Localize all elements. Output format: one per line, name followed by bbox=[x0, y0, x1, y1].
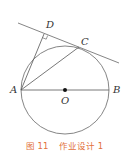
circle-tangent-diagram bbox=[0, 0, 129, 155]
label-c: C bbox=[81, 37, 89, 47]
figure-caption: 图 11 作业设计 1 bbox=[0, 142, 129, 151]
label-a: A bbox=[10, 85, 17, 95]
center-point-o bbox=[63, 88, 67, 92]
geometry-figure: D C A B O 图 11 作业设计 1 bbox=[0, 0, 129, 155]
label-b: B bbox=[113, 85, 120, 95]
label-o: O bbox=[61, 96, 69, 106]
label-d: D bbox=[46, 20, 54, 30]
tangent-line bbox=[18, 23, 119, 63]
